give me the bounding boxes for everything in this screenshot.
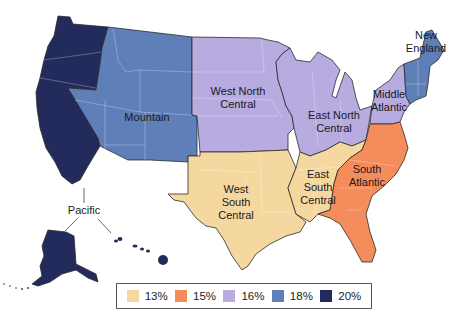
legend-swatch-13 [127,290,139,302]
legend-swatch-16 [223,290,235,302]
label-pacific: Pacific [64,204,104,217]
legend-item: 13% [127,290,168,302]
legend: 13% 15% 16% 18% 20% [116,283,372,309]
legend-item: 18% [272,290,313,302]
label-middle-atlantic: Middle Atlantic [364,88,414,114]
legend-item: 20% [320,290,361,302]
legend-label: 13% [145,290,168,302]
legend-item: 15% [175,290,216,302]
region-pacific-hawaii [114,237,168,265]
region-pacific-alaska [32,230,98,286]
legend-label: 18% [290,290,313,302]
legend-label: 16% [241,290,264,302]
label-west-south-central: West South Central [208,183,264,222]
legend-label: 15% [193,290,216,302]
legend-label: 20% [338,290,361,302]
legend-swatch-20 [320,290,332,302]
label-mountain: Mountain [112,111,182,124]
label-east-south-central: East South Central [293,168,343,207]
label-west-north-central: West North Central [200,85,276,111]
legend-item: 16% [223,290,264,302]
label-new-england: New England [398,29,454,55]
legend-swatch-15 [175,290,187,302]
label-east-north-central: East North Central [296,109,372,135]
region-east-north-central [276,48,372,156]
label-south-atlantic: South Atlantic [342,163,392,189]
us-census-division-map [0,0,461,322]
legend-swatch-18 [272,290,284,302]
